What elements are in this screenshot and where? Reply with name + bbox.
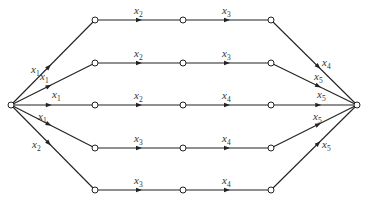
edge-in-5 (11, 105, 95, 190)
signal-flow-graph: x1x2x3x4x1x2x3x5x1x2x4x5x1x3x4x5x2x3x4x5 (0, 0, 368, 202)
edge-label: x4 (221, 132, 231, 147)
edge-label: x2 (133, 89, 143, 104)
edge-label: x3 (221, 4, 231, 19)
sink-node (354, 102, 360, 108)
edge-label: x1 (37, 110, 47, 125)
graph-node (268, 17, 274, 23)
path-4 (11, 105, 357, 148)
graph-node (92, 60, 98, 66)
graph-node (268, 187, 274, 193)
edge-label: x2 (31, 138, 41, 153)
graph-node (268, 145, 274, 151)
edge-label: x5 (316, 88, 326, 103)
graph-node (92, 187, 98, 193)
edge-label: x5 (312, 110, 322, 125)
edge-label: x4 (321, 56, 331, 71)
graph-node (92, 102, 98, 108)
edge-label: x4 (221, 174, 231, 189)
edge-label: x2 (133, 47, 143, 62)
edge-label: x3 (133, 132, 143, 147)
edge-label: x2 (133, 4, 143, 19)
edge-out-1 (271, 20, 357, 105)
graph-node (180, 187, 186, 193)
edge-label: x3 (221, 47, 231, 62)
graph-node (180, 102, 186, 108)
graph-node (92, 17, 98, 23)
edge-label: x5 (313, 70, 323, 85)
graph-node (92, 145, 98, 151)
arrow-icon (46, 103, 52, 107)
edge-label: x5 (321, 138, 331, 153)
graph-node (268, 60, 274, 66)
edge-label: x1 (51, 88, 61, 103)
graph-node (180, 145, 186, 151)
arrow-icon (315, 103, 321, 107)
graph-node (180, 60, 186, 66)
source-node (8, 102, 14, 108)
edge-in-4 (11, 105, 95, 148)
edge-label: x3 (133, 174, 143, 189)
edge-label: x1 (39, 70, 49, 85)
path-2 (11, 63, 357, 105)
edge-label: x1 (30, 63, 40, 78)
edge-label: x4 (221, 89, 231, 104)
graph-node (268, 102, 274, 108)
graph-node (180, 17, 186, 23)
